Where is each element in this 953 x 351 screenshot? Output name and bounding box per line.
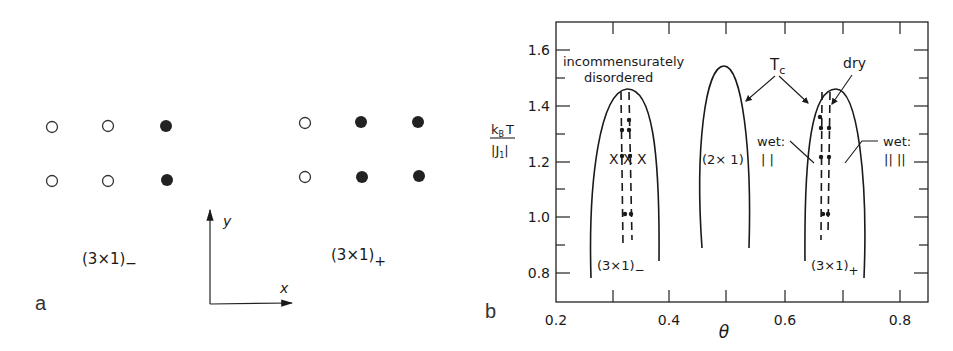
lattice-3x1-minus [47,120,174,187]
label-phase-2x1: (2× 1) [702,152,744,167]
panel-b: 1.6 1.4 1.2 1.0 0.8 0.2 0.4 0.6 0.8 θ kB… [485,22,928,342]
x-tick-0.8: 0.8 [889,312,911,328]
tc-arrow-right [779,76,808,103]
annotation-wet-right-symbol: || || [884,152,906,167]
y-axis-label: y [222,213,232,229]
site-open [47,122,58,133]
svg-text:kBT: kBT [491,122,514,139]
y-tick-1.6: 1.6 [528,42,550,58]
wetting-lines-minus [621,92,632,245]
y-axis-title: kBT |J1| [490,122,515,160]
annotation-dry: dry [843,55,866,71]
panel-letter-b: b [485,300,496,322]
x-tick-0.2: 0.2 [545,312,567,328]
site-filled [160,120,172,132]
tc-curve-3x1-plus [805,89,865,278]
x-tick-0.6: 0.6 [774,312,796,328]
xy-axes: y x [210,210,292,304]
panel-letter-a: a [35,292,47,314]
site-open [103,121,114,132]
tc-curve-3x1-minus [591,89,660,278]
wetting-lines-plus [821,92,830,240]
phase-boundaries [591,66,865,278]
x-axis-arrow [210,303,292,304]
site-filled [412,116,424,128]
y-tick-1.0: 1.0 [528,209,550,225]
x-tick-0.4: 0.4 [658,312,680,328]
annotation-tc: Tc [769,56,785,77]
y-tick-0.8: 0.8 [528,265,550,281]
site-filled [356,171,368,183]
annotation-wet-left-symbol: | | [761,152,774,167]
lattice-3x1-plus [300,116,426,183]
y-tick-labels: 1.6 1.4 1.2 1.0 0.8 [528,42,550,281]
label-phase-3x1-plus: (3×1)+ [811,258,859,278]
y-tick-1.2: 1.2 [528,154,550,170]
site-open [300,172,311,183]
annotation-wet-left: wet: [757,134,785,149]
x-axis-label: x [279,280,289,296]
annotation-disordered: disordered [584,70,653,85]
site-filled [161,174,173,186]
annotation-wet-right: wet: [883,134,911,149]
panel-a: (3×1)− (3×1)+ y x a [35,116,425,314]
tc-arrow-left [746,76,775,101]
annotation-incommensurately: incommensurately [563,54,685,69]
label-3x1-minus: (3×1)− [82,250,137,271]
label-3x1-plus: (3×1)+ [331,246,386,269]
y-tick-1.4: 1.4 [528,98,550,114]
site-filled [355,116,367,128]
site-open [47,176,58,187]
figure-canvas: (3×1)− (3×1)+ y x a [0,0,953,351]
svg-text:|J1|: |J1| [491,143,509,160]
wet-left-pointer [790,141,814,163]
site-filled [413,170,425,182]
site-open [103,176,114,187]
cross-markers: X X X [609,151,647,167]
x-axis-title: θ [719,322,730,342]
site-open [300,118,311,129]
label-phase-3x1-minus: (3×1)− [597,258,645,277]
